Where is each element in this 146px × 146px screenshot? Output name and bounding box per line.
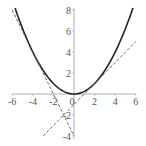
- x-tick-label: 2: [92, 96, 97, 107]
- x-tick-label: -4: [29, 96, 37, 107]
- y-tick-label: 8: [66, 5, 71, 16]
- tangent-line-2: [43, 42, 136, 137]
- x-tick-label: 6: [133, 96, 138, 107]
- y-tick-label: -4: [63, 131, 71, 142]
- x-tick-label: -2: [49, 96, 57, 107]
- x-tick-label: 4: [113, 96, 118, 107]
- x-tick-label: -6: [8, 96, 16, 107]
- x-tick-label: 0: [70, 96, 75, 107]
- y-tick-labels: -4-22468: [63, 5, 74, 142]
- y-tick-label: 2: [66, 68, 71, 79]
- x-tick-labels: -6-4-20246: [8, 94, 138, 107]
- chart: -6-4-20246 -4-22468: [0, 0, 146, 146]
- y-tick-label: 4: [66, 47, 71, 58]
- y-tick-label: 6: [66, 26, 71, 37]
- axes: [12, 8, 136, 139]
